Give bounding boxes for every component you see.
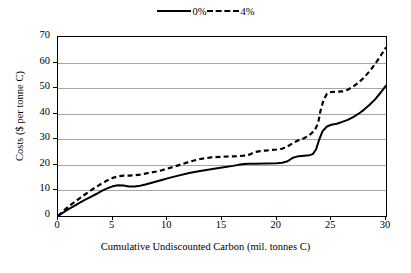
chart-container: 0% 4% 010203040506070 051015202530 Cumul… bbox=[0, 0, 411, 273]
y-tick-label-30: 30 bbox=[24, 132, 50, 143]
legend-swatch-solid-line-icon bbox=[157, 10, 191, 12]
legend-entry-1: 4% bbox=[207, 6, 255, 17]
x-tick-label-10: 10 bbox=[151, 219, 181, 230]
y-tick-label-50: 50 bbox=[24, 81, 50, 92]
legend-entry-0: 0% bbox=[157, 6, 207, 17]
x-tick-label-25: 25 bbox=[315, 219, 345, 230]
x-tick-label-20: 20 bbox=[261, 219, 291, 230]
y-tick-label-10: 10 bbox=[24, 183, 50, 194]
y-tick-label-40: 40 bbox=[24, 107, 50, 118]
y-tick-label-60: 60 bbox=[24, 56, 50, 67]
x-axis-title: Cumulative Undiscounted Carbon (mil. ton… bbox=[0, 241, 411, 253]
x-tick-label-30: 30 bbox=[370, 219, 400, 230]
legend-swatch-dashed-line-icon bbox=[207, 10, 239, 12]
plot-area bbox=[57, 36, 387, 217]
series-line-0pct bbox=[58, 86, 386, 216]
y-axis-title: Costs ($ per tonne C) bbox=[14, 36, 26, 196]
x-tick-label-0: 0 bbox=[42, 219, 72, 230]
series-line-4pct bbox=[58, 47, 386, 216]
y-tick-label-0: 0 bbox=[24, 209, 50, 220]
x-tick-label-15: 15 bbox=[206, 219, 236, 230]
y-tick-label-70: 70 bbox=[24, 30, 50, 41]
legend-label-1: 4% bbox=[241, 6, 255, 17]
y-tick-label-20: 20 bbox=[24, 158, 50, 169]
legend-label-0: 0% bbox=[193, 6, 207, 17]
chart-legend: 0% 4% bbox=[0, 2, 411, 20]
series-lines bbox=[58, 37, 386, 216]
x-tick-label-5: 5 bbox=[97, 219, 127, 230]
